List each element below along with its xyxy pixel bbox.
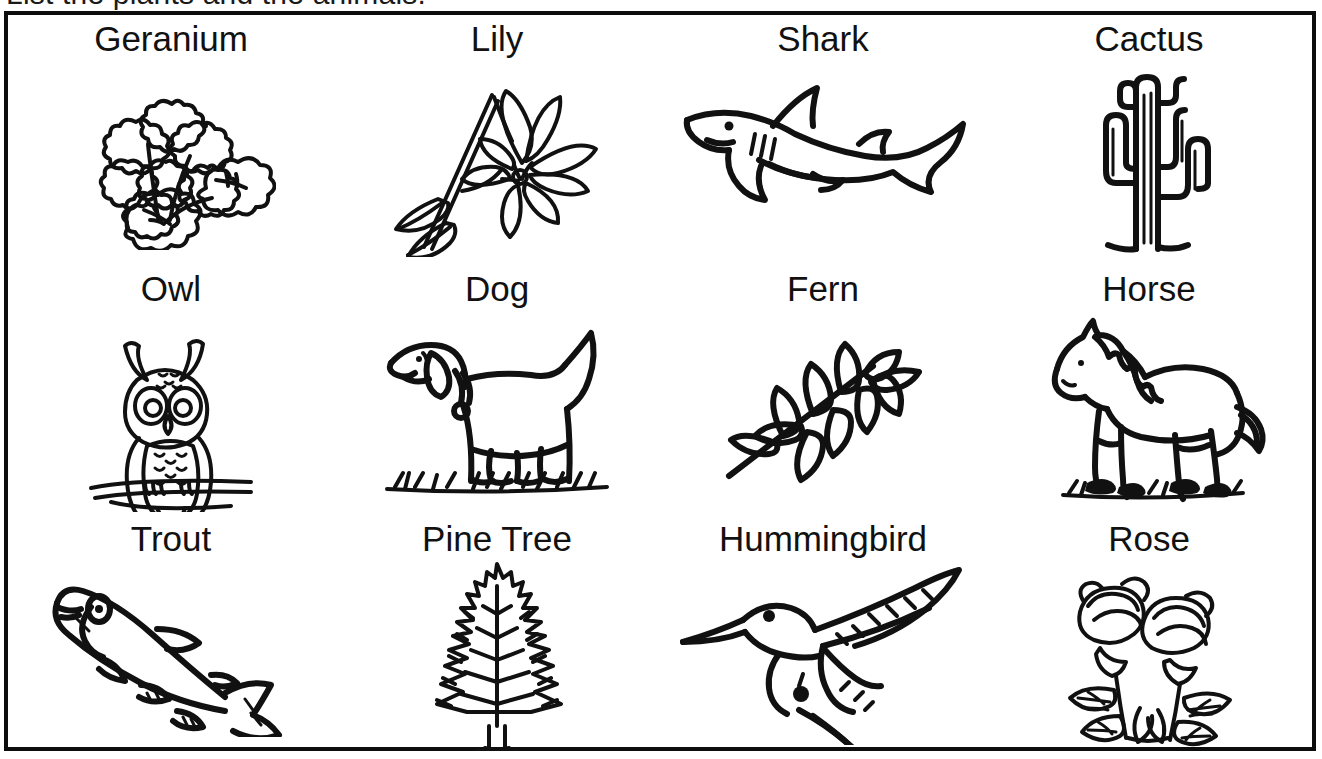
grid-cell-rose: Rose (986, 515, 1312, 751)
grid-cell-pine-tree: Pine Tree (334, 515, 660, 751)
grid-cell-owl: Owl (8, 265, 334, 515)
trout-illustration (8, 558, 334, 751)
instruction-text: List the plants and the animals. (6, 0, 426, 11)
item-label-horse: Horse (1102, 269, 1195, 308)
item-label-rose: Rose (1108, 519, 1190, 558)
grid-cell-cactus: Cactus (986, 15, 1312, 265)
rose-illustration (986, 558, 1312, 751)
item-label-cactus: Cactus (1095, 19, 1204, 58)
item-label-owl: Owl (141, 269, 201, 308)
item-label-lily: Lily (471, 19, 524, 58)
illustration-grid: Geranium (8, 15, 1312, 747)
hummingbird-illustration (660, 558, 986, 751)
pine-tree-illustration (334, 558, 660, 751)
item-label-pine-tree: Pine Tree (422, 519, 572, 558)
grid-cell-trout: Trout (8, 515, 334, 751)
owl-illustration (8, 308, 334, 515)
grid-cell-fern: Fern (660, 265, 986, 515)
dog-illustration (334, 308, 660, 515)
grid-cell-shark: Shark (660, 15, 986, 265)
lily-illustration (334, 58, 660, 265)
grid-cell-geranium: Geranium (8, 15, 334, 265)
item-label-trout: Trout (131, 519, 211, 558)
item-label-geranium: Geranium (94, 19, 248, 58)
item-label-hummingbird: Hummingbird (719, 519, 927, 558)
grid-cell-hummingbird: Hummingbird (660, 515, 986, 751)
geranium-illustration (8, 58, 334, 265)
worksheet-box: Geranium (4, 11, 1316, 751)
item-label-shark: Shark (777, 19, 868, 58)
cactus-illustration (986, 58, 1312, 265)
fern-illustration (660, 308, 986, 515)
shark-illustration (660, 58, 986, 265)
item-label-dog: Dog (465, 269, 529, 308)
grid-cell-horse: Horse (986, 265, 1312, 515)
item-label-fern: Fern (787, 269, 859, 308)
grid-cell-lily: Lily (334, 15, 660, 265)
grid-cell-dog: Dog (334, 265, 660, 515)
horse-illustration (986, 308, 1312, 515)
instruction-strip: List the plants and the animals. (0, 0, 1322, 11)
